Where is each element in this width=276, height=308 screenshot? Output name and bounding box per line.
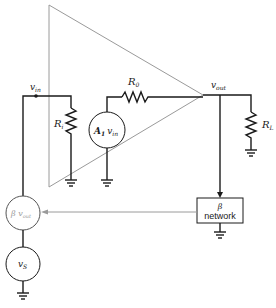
r0-label: R0 [127, 76, 140, 88]
rl-ground-icon [245, 150, 257, 156]
beta-ground-icon [214, 232, 226, 238]
feedback-amplifier-diagram: vin Ri R0 A1vin vout RL β [0, 0, 276, 308]
vin-node-dot [34, 94, 38, 98]
a1-top-wire [107, 97, 122, 112]
beta-box-label: network [204, 211, 236, 221]
rl-label: RL [261, 119, 274, 131]
ri-resistor [66, 108, 76, 180]
r0-resistor [122, 92, 203, 102]
input-wire [23, 96, 71, 196]
output-wire [203, 95, 251, 112]
vs-ground-icon [17, 293, 29, 299]
a1-ground-icon [101, 180, 113, 186]
ri-label: Ri [53, 118, 64, 130]
arrow-left-icon [41, 210, 48, 215]
arrow-down-icon [217, 192, 223, 198]
ri-ground-icon [65, 180, 77, 186]
vout-label: vout [211, 80, 227, 91]
beta-box-symbol: β [217, 202, 223, 211]
rl-resistor [246, 112, 256, 150]
vin-label: vin [30, 82, 41, 93]
